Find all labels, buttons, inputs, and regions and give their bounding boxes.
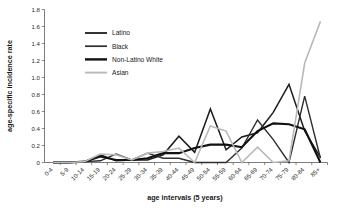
x-tick-label: 80-84 [289, 165, 305, 181]
x-tick-label: 50-54 [195, 165, 211, 181]
series-line-asian [53, 21, 320, 162]
x-tick-label: 40-44 [164, 165, 180, 181]
series-line-black [53, 96, 320, 162]
legend-label-non-latino-white: Non-Latino White [112, 56, 163, 63]
x-tick-label: 55-59 [211, 165, 227, 181]
incidence-rate-line-chart: 00.20.40.60.81.01.21.41.61.8 0-45-910-14… [0, 0, 337, 212]
x-tick-label: 70-74 [258, 165, 274, 181]
legend-label-latino: Latino [112, 29, 130, 36]
x-tick-label: 75-79 [274, 165, 290, 181]
y-tick-label: 1.6 [32, 23, 41, 30]
y-tick-label: 0.8 [32, 91, 41, 98]
y-axis-title: age-specific incidence rate [5, 40, 14, 132]
y-tick-label: 1.0 [32, 74, 41, 81]
y-tick-label: 1.4 [32, 40, 41, 47]
y-tick-label: 1.8 [32, 6, 41, 13]
x-tick-label: 15-19 [85, 165, 101, 181]
legend-label-black: Black [112, 43, 129, 50]
series-lines [53, 21, 320, 162]
y-tick-label: 1.2 [32, 57, 41, 64]
x-tick-label: 85+ [309, 165, 322, 178]
x-tick-label: 35-39 [148, 165, 164, 181]
y-tick-label: 0 [37, 159, 41, 166]
x-tick-label: 25-29 [116, 165, 132, 181]
x-axis-tick-labels: 0-45-910-1415-1920-2425-2930-3435-3940-4… [43, 165, 322, 181]
y-axis-tick-marks [42, 10, 45, 163]
x-tick-label: 60-64 [227, 165, 243, 181]
y-tick-label: 0.6 [32, 108, 41, 115]
y-tick-label: 0.4 [32, 125, 41, 132]
chart-legend: LatinoBlackNon-Latino WhiteAsian [85, 29, 163, 76]
x-tick-label: 5-9 [58, 165, 70, 177]
x-tick-label: 10-14 [69, 165, 85, 181]
x-tick-label: 45-49 [179, 165, 195, 181]
y-axis-tick-labels: 00.20.40.60.81.01.21.41.61.8 [32, 6, 41, 166]
x-tick-label: 0-4 [43, 165, 55, 177]
legend-label-asian: Asian [112, 69, 129, 76]
x-tick-label: 65-69 [242, 165, 258, 181]
x-tick-label: 30-34 [132, 165, 148, 181]
x-axis-title: age intervals (5 years) [147, 193, 223, 202]
y-tick-label: 0.2 [32, 142, 41, 149]
x-tick-label: 20-24 [101, 165, 117, 181]
chart-page: 00.20.40.60.81.01.21.41.61.8 0-45-910-14… [0, 0, 337, 212]
